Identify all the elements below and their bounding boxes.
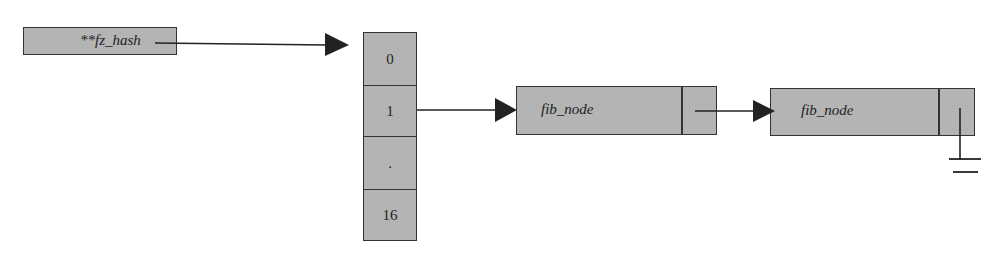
bucket-index: . xyxy=(388,155,392,172)
bucket-cell-1: 1 xyxy=(364,85,416,136)
bucket-index: 16 xyxy=(383,207,398,224)
bucket-index: 1 xyxy=(386,103,394,120)
fib-node-1: fib_node xyxy=(516,86,717,135)
fib-node-1-next-divider xyxy=(681,87,683,134)
bucket-cell-16: 16 xyxy=(364,189,416,240)
fib-node-2: fib_node xyxy=(770,88,975,136)
arrow-bucket1-to-fib-node-1 xyxy=(417,98,517,122)
bucket-cell-0: 0 xyxy=(364,33,416,85)
fz-hash-pointer-box: **fz_hash xyxy=(23,27,177,55)
arrow-fz-hash-to-array xyxy=(155,33,349,56)
diagram-canvas: **fz_hash 0 1 . 16 fib_node fib_node xyxy=(0,0,1002,255)
fz-hash-label: **fz_hash xyxy=(80,32,141,49)
fib-node-2-label: fib_node xyxy=(801,102,854,119)
bucket-index: 0 xyxy=(386,51,394,68)
bucket-cell-ellipsis: . xyxy=(364,136,416,189)
fib-node-2-next-divider xyxy=(938,89,940,135)
hash-bucket-array: 0 1 . 16 xyxy=(363,32,417,241)
fib-node-1-label: fib_node xyxy=(541,101,594,118)
